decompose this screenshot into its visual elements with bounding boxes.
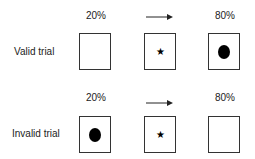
center-fixation-box: ★ — [144, 116, 176, 153]
right-probability-label: 80% — [208, 92, 242, 103]
target-dot-icon — [89, 128, 101, 142]
left-location-box — [79, 116, 111, 153]
right-location-box — [208, 116, 240, 153]
arrow-right-icon — [146, 12, 174, 22]
star-icon: ★ — [156, 47, 165, 57]
right-location-box — [208, 33, 240, 70]
target-dot-icon — [218, 45, 230, 59]
left-location-box — [79, 33, 111, 70]
left-probability-label: 20% — [79, 92, 113, 103]
right-probability-label: 80% — [208, 10, 242, 21]
row-label: Invalid trial — [12, 128, 60, 139]
left-probability-label: 20% — [79, 10, 113, 21]
arrow-right-icon — [146, 98, 174, 108]
star-icon: ★ — [156, 130, 165, 140]
row-label: Valid trial — [14, 46, 54, 57]
center-fixation-box: ★ — [144, 33, 176, 70]
